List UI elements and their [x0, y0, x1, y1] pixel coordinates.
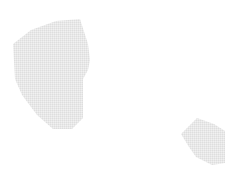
map-canvas — [0, 0, 225, 188]
map-svg — [0, 0, 225, 188]
